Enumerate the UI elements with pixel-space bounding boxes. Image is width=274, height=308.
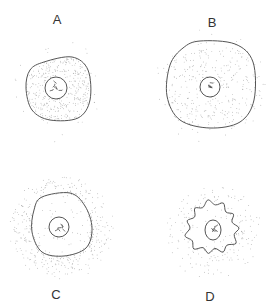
panel-b-cell (157, 30, 265, 142)
cell-diagram-canvas (0, 0, 274, 308)
panel-label-d: D (205, 290, 214, 303)
panel-a-cell (15, 42, 98, 142)
panel-label-b: B (208, 16, 217, 29)
panel-d-cell (167, 187, 260, 277)
panel-label-a: A (53, 13, 62, 26)
panel-c-cell (10, 177, 114, 279)
nucleus-outline (49, 217, 69, 237)
panel-label-c: C (51, 288, 60, 301)
